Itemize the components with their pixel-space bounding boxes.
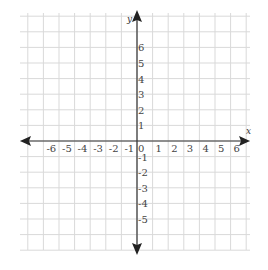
y-axis-label: y (126, 14, 133, 24)
x-tick-label: 2 (171, 143, 177, 154)
x-tick-label: -3 (93, 143, 103, 154)
y-tick-label: -4 (138, 198, 148, 209)
y-tick-label: 3 (138, 89, 144, 100)
coordinate-grid: y x -6-5-4-3-2-10123456 123456-1-2-3-4-5 (0, 0, 268, 270)
x-tick-label: -1 (124, 143, 134, 154)
x-tick-label: 1 (156, 143, 162, 154)
y-tick-label: 1 (138, 120, 144, 131)
x-tick-label: 5 (218, 143, 224, 154)
x-tick-label: -5 (62, 143, 72, 154)
x-tick-label: -2 (109, 143, 119, 154)
x-tick-label: -4 (78, 143, 88, 154)
coordinate-plane: y x -6-5-4-3-2-10123456 123456-1-2-3-4-5 (0, 0, 268, 270)
y-tick-label: 6 (138, 42, 144, 53)
y-tick-label: 5 (138, 58, 144, 69)
y-tick-label: -3 (138, 183, 148, 194)
x-tick-label: 3 (187, 143, 193, 154)
x-tick-label: 4 (202, 143, 208, 154)
y-tick-label: 4 (138, 74, 144, 85)
y-tick-label: 2 (138, 105, 144, 116)
grid-lines (20, 13, 250, 250)
y-tick-labels: 123456-1-2-3-4-5 (138, 42, 148, 225)
y-tick-label: -5 (138, 214, 148, 225)
y-tick-label: -2 (138, 167, 148, 178)
y-tick-label: -1 (138, 152, 148, 163)
x-axis-label: x (246, 126, 251, 136)
x-tick-label: -6 (46, 143, 56, 154)
x-tick-label: 6 (234, 143, 240, 154)
